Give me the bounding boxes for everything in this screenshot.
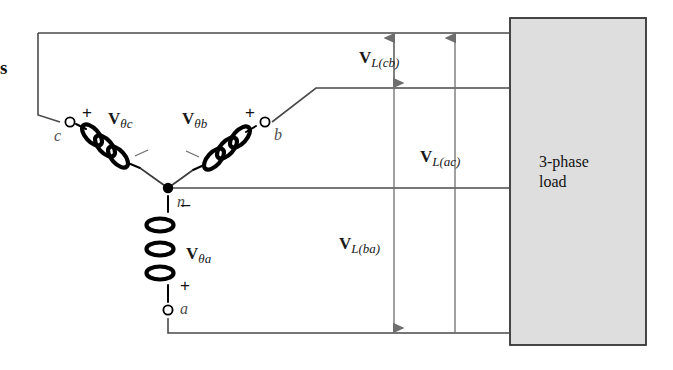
line-conductor-c-drop <box>38 33 60 122</box>
line-conductor-a <box>168 318 510 333</box>
terminal-a <box>163 305 172 314</box>
circuit-canvas <box>0 0 673 370</box>
terminal-b <box>260 117 269 126</box>
coil-b <box>200 123 253 173</box>
load-box <box>510 18 646 345</box>
three-phase-source-diagram: s c b n a + + + − Vθc Vθb Vθa VL(cb) VL(… <box>0 0 673 370</box>
terminal-c <box>65 117 74 126</box>
coil-a <box>147 219 174 280</box>
neutral-node <box>163 183 173 193</box>
polarity-minus-b <box>186 151 199 157</box>
line-conductor-b <box>272 88 510 122</box>
polarity-minus-c <box>135 150 148 156</box>
